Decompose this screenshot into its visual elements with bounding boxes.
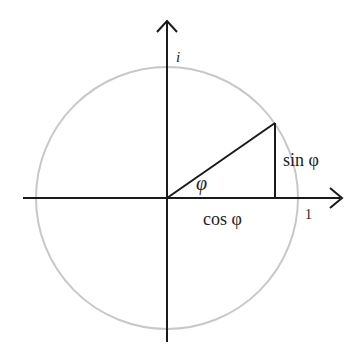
real-unit-label: 1 [305, 207, 312, 222]
radius-line [167, 123, 275, 198]
sine-label: sin φ [283, 150, 319, 170]
unit-circle-diagram: i φ sin φ cos φ 1 [0, 0, 359, 351]
imaginary-unit-label: i [176, 49, 180, 65]
angle-label: φ [196, 172, 207, 195]
cosine-label: cos φ [203, 209, 242, 229]
